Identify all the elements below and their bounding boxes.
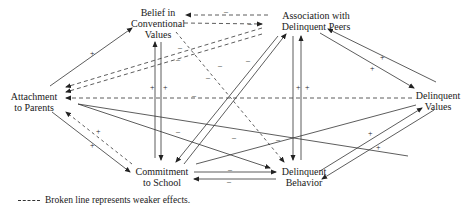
svg-text:–: – — [175, 127, 181, 136]
svg-text:+: + — [368, 129, 373, 138]
svg-text:–: – — [275, 135, 281, 144]
svg-text:+: + — [380, 53, 385, 62]
svg-text:–: – — [223, 7, 229, 16]
svg-text:+: + — [90, 141, 95, 150]
svg-text:+: + — [370, 64, 375, 73]
svg-text:–: – — [231, 133, 237, 142]
svg-text:–: – — [177, 43, 183, 52]
legend: Broken line represents weaker effects. — [18, 195, 190, 205]
node-peers: Association with Delinquent Peers — [264, 10, 368, 32]
edge-peers-values — [320, 33, 414, 88]
svg-text:+: + — [96, 127, 101, 136]
edge-commitment-values — [196, 105, 416, 164]
edge-commitment-attachment — [66, 112, 132, 164]
edge-commitment-peers — [184, 34, 286, 164]
svg-text:–: – — [245, 56, 251, 65]
edge-attachment-behavior — [78, 104, 270, 168]
svg-text:–: – — [226, 177, 232, 186]
node-attachment: Attachment to Parents — [6, 91, 62, 113]
svg-text:–: – — [205, 73, 211, 82]
node-behavior: Delinquent Behavior — [276, 166, 332, 188]
svg-text:–: – — [217, 61, 223, 70]
svg-text:–: – — [175, 55, 181, 64]
svg-text:+: + — [296, 83, 301, 92]
svg-text:+: + — [150, 83, 155, 92]
svg-text:+: + — [305, 83, 310, 92]
svg-text:–: – — [191, 91, 197, 100]
path-diagram: + – – – – – + + – – + + + + – + + – – – … — [0, 0, 471, 212]
legend-text: Broken line represents weaker effects. — [45, 195, 190, 205]
node-commitment: Commitment to School — [132, 166, 192, 188]
svg-text:–: – — [227, 165, 233, 174]
edge-attachment-behavior-seg — [78, 104, 408, 156]
svg-text:–: – — [247, 19, 253, 28]
svg-text:+: + — [163, 83, 168, 92]
dashed-line-swatch — [18, 200, 40, 201]
svg-text:+: + — [90, 49, 95, 58]
svg-text:+: + — [376, 143, 381, 152]
node-belief: Belief in Conventional Values — [130, 7, 186, 40]
node-values: Delinquent Values — [410, 90, 466, 112]
